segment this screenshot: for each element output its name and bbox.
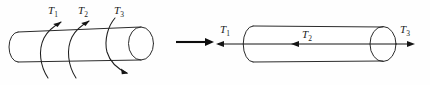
left-label-t3: T3 xyxy=(114,4,124,19)
left-torque-arrowhead-t3 xyxy=(121,69,128,75)
left-shaft-group: T1 T2 T3 xyxy=(9,4,154,78)
right-vector-arrowhead-t3 xyxy=(407,41,415,47)
right-label-t3: T3 xyxy=(400,23,410,38)
torsion-figure: T1 T2 T3 xyxy=(0,0,430,85)
right-shaft-group: T1 T2 T3 xyxy=(216,23,415,62)
equivalence-arrow-group xyxy=(176,38,214,46)
left-label-t2: T2 xyxy=(78,4,88,19)
right-label-t1: T1 xyxy=(220,23,230,38)
left-label-t1: T1 xyxy=(48,4,58,19)
right-vector-arrowhead-t1 xyxy=(216,41,224,47)
equivalence-arrow-head xyxy=(205,38,214,46)
figure-canvas: T1 T2 T3 xyxy=(0,0,430,85)
